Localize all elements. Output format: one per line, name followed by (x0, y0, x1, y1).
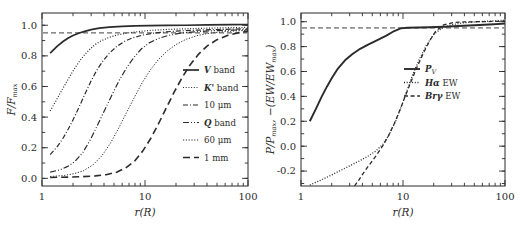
left-panel: 1101000.00.20.40.60.81.0r(R)F/FmaxV band… (5, 13, 258, 218)
legend: PVHα EWBrγ EW (404, 64, 460, 101)
x-tick-label: 100 (495, 191, 514, 202)
y-tick-label: 0.2 (21, 142, 37, 153)
legend-label: Brγ EW (424, 91, 460, 101)
legend-label: V band (204, 65, 236, 75)
series-line (355, 21, 505, 186)
y-tick-label: -0.2 (277, 165, 296, 176)
legend-label: Q band (204, 118, 236, 128)
y-tick-label: 0.6 (280, 66, 296, 77)
x-tick-label: 1 (298, 191, 304, 202)
series-line (310, 24, 505, 122)
series-line (310, 20, 505, 185)
legend-label: PV (424, 64, 437, 76)
x-tick-label: 100 (238, 191, 257, 202)
y-tick-label: 0.8 (280, 41, 296, 52)
legend-label: 60 μm (204, 135, 231, 145)
plot-frame (301, 13, 505, 186)
x-tick-label: 10 (397, 191, 410, 202)
x-tick-label: 1 (39, 191, 45, 202)
x-axis-title: r(R) (392, 206, 413, 218)
y-tick-label: 0.4 (280, 91, 296, 102)
figure-root: 1101000.00.20.40.60.81.0r(R)F/FmaxV band… (0, 0, 520, 225)
y-tick-label: 0.2 (280, 116, 296, 127)
legend-label: 10 μm (204, 100, 231, 110)
legend: V bandK' band10 μmQ band60 μm1 mm (183, 65, 239, 163)
right-panel: 110100-0.20.00.20.40.60.81.0r(R)P/Pmax, … (264, 13, 515, 218)
x-tick-label: 10 (139, 191, 152, 202)
y-tick-label: 1.0 (280, 16, 296, 27)
y-tick-label: 0.0 (21, 173, 37, 184)
series-group (310, 20, 505, 186)
y-axis-title: P/Pmax, −(EW/EWmax) (264, 45, 278, 156)
legend-label: Hα EW (424, 78, 458, 88)
y-tick-label: 0.8 (21, 50, 37, 61)
x-axis-title: r(R) (134, 206, 155, 218)
y-tick-label: 0.4 (21, 112, 37, 123)
legend-label: K' band (203, 83, 239, 93)
x-axis-ticks (301, 13, 505, 186)
figure-canvas: 1101000.00.20.40.60.81.0r(R)F/FmaxV band… (0, 0, 520, 225)
series-line (50, 24, 248, 53)
y-tick-label: 1.0 (21, 20, 37, 31)
y-tick-label: 0.6 (21, 81, 37, 92)
y-axis-title: F/Fmax (5, 83, 19, 116)
legend-label: 1 mm (204, 153, 229, 163)
y-tick-label: 0.0 (280, 141, 296, 152)
